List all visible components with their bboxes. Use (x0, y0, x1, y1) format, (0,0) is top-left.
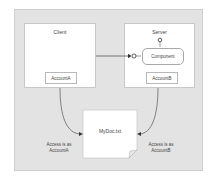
client-account-box: AccountA (45, 72, 77, 84)
access-note-right: Access is as AccountB (141, 142, 181, 154)
access-note-left-line2: AccountA (39, 148, 79, 154)
document-label: MyDoc.txt (83, 128, 137, 134)
client-title: Client (25, 29, 95, 35)
access-note-right-line2: AccountB (141, 148, 181, 154)
component-box: Component (142, 48, 184, 65)
server-title: Server (125, 29, 194, 35)
server-node: Server Component AccountB (124, 23, 195, 88)
document-node: MyDoc.txt (83, 110, 137, 158)
access-note-left: Access is as AccountA (39, 142, 79, 154)
client-node: Client AccountA (24, 23, 96, 88)
server-account-box: AccountB (146, 72, 178, 84)
